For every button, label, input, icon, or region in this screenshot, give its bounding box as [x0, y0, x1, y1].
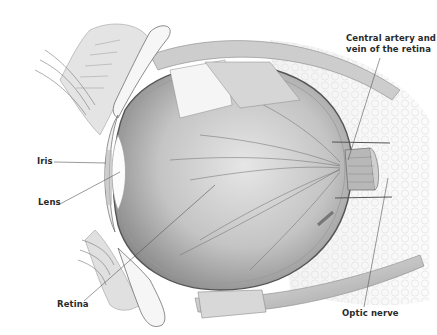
- label-iris: Iris: [37, 156, 53, 167]
- label-optic-nerve: Optic nerve: [342, 308, 399, 319]
- label-lens: Lens: [38, 197, 61, 208]
- label-central-artery-line1: Central artery and: [346, 33, 436, 44]
- leader-line-iris: [54, 162, 106, 163]
- label-central-artery-and-vein: Central artery and vein of the retina: [346, 33, 436, 55]
- eyeball: [113, 60, 352, 290]
- label-retina: Retina: [57, 299, 89, 310]
- label-central-artery-line2: vein of the retina: [346, 44, 436, 55]
- inferior-oblique-muscle: [198, 290, 266, 318]
